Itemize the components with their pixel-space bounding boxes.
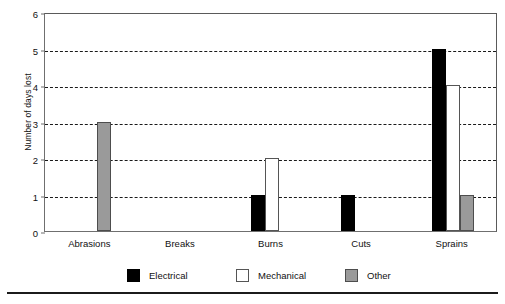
legend-label: Electrical xyxy=(149,270,188,281)
x-tick-label-abrasions: Abrasions xyxy=(68,238,110,249)
y-tick-label: 4 xyxy=(33,82,38,93)
legend-item-electrical[interactable]: Electrical xyxy=(127,268,188,282)
legend-label: Other xyxy=(367,270,391,281)
x-tick-label-breaks: Breaks xyxy=(165,238,195,249)
y-tick-label: 1 xyxy=(33,191,38,202)
legend-swatch-mechanical-icon xyxy=(236,269,249,282)
y-tick-label: 0 xyxy=(33,228,38,239)
footer-rule xyxy=(7,292,498,294)
y-tick-mark xyxy=(41,233,45,234)
y-tick-label: 5 xyxy=(33,45,38,56)
bar-burns-mechanical xyxy=(265,158,279,231)
legend-item-other[interactable]: Other xyxy=(345,268,391,282)
y-tick-label: 3 xyxy=(33,118,38,129)
bar-cluster xyxy=(432,14,474,231)
bar-sprains-other xyxy=(460,195,474,232)
bar-cuts-electrical xyxy=(341,195,355,232)
plot-area: 0123456 xyxy=(44,13,497,232)
bar-cluster xyxy=(160,14,202,231)
y-tick-label: 6 xyxy=(33,9,38,20)
chart-legend: ElectricalMechanicalOther xyxy=(0,268,505,286)
bar-sprains-mechanical xyxy=(446,85,460,231)
x-tick-label-sprains: Sprains xyxy=(436,238,468,249)
bar-cluster xyxy=(69,14,111,231)
bar-chart: Number of days lost 0123456 AbrasionsBre… xyxy=(0,0,505,304)
bar-cluster xyxy=(341,14,383,231)
bar-cluster xyxy=(251,14,293,231)
x-tick-label-burns: Burns xyxy=(258,238,283,249)
bar-sprains-electrical xyxy=(432,49,446,232)
x-tick-label-cuts: Cuts xyxy=(351,238,371,249)
legend-swatch-other-icon xyxy=(345,269,358,282)
y-tick-label: 2 xyxy=(33,155,38,166)
bar-abrasions-other xyxy=(97,122,111,232)
legend-label: Mechanical xyxy=(258,270,306,281)
y-axis-title: Number of days lost xyxy=(23,32,33,192)
bar-series-layer xyxy=(45,14,496,231)
legend-item-mechanical[interactable]: Mechanical xyxy=(236,268,306,282)
legend-swatch-electrical-icon xyxy=(127,269,140,282)
bar-burns-electrical xyxy=(251,195,265,232)
